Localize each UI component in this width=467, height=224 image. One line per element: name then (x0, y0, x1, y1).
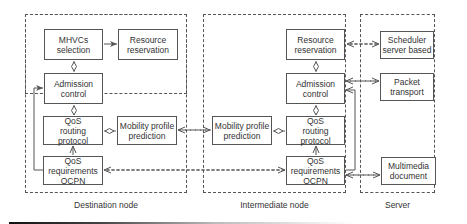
box-label-line: routing protocol (44, 126, 102, 146)
box-label-line: OCPN (61, 176, 86, 186)
destination-qos-requirements-ocpn-box: QoS requirements OCPN (43, 156, 103, 185)
box-label-line: MHVCs (59, 35, 88, 45)
box-label-line: OCPN (303, 176, 328, 186)
box-label-line: Admission (296, 79, 335, 89)
box-label-line: routing protocol (287, 126, 344, 146)
box-label-line: reservation (294, 45, 336, 55)
box-label-line: QoS (64, 116, 81, 126)
box-label-line: Resource (130, 35, 166, 45)
box-label-line: Mobility profile (215, 121, 269, 131)
box-label-line: prediction (129, 131, 166, 141)
destination-admission-control-box: Admission control (44, 73, 103, 104)
destination-resource-reservation-box: Resource reservation (118, 29, 178, 60)
intermediate-qos-requirements-ocpn-box: QoS requirements OCPN (286, 156, 345, 185)
box-label-line: prediction (224, 131, 261, 141)
mhvcs-selection-box: MHVCs selection (44, 29, 103, 60)
intermediate-resource-reservation-box: Resource reservation (286, 29, 345, 60)
box-label-line: transport (390, 87, 424, 97)
box-label-line: Resource (297, 35, 333, 45)
box-label-line: reservation (127, 45, 169, 55)
destination-node-caption: Destination node (25, 200, 187, 210)
intermediate-qos-routing-protocol-box: QoS routing protocol (286, 116, 345, 145)
intermediate-node-caption: Intermediate node (203, 200, 346, 210)
box-label-line: Mobility profile (120, 121, 174, 131)
box-label-line: QoS (64, 156, 81, 166)
packet-transport-box: Packet transport (380, 73, 434, 101)
box-label-line: selection (57, 45, 91, 55)
box-label-line: Packet (394, 77, 420, 87)
box-label-line: Admission (54, 79, 93, 89)
box-label-line: QoS (307, 156, 324, 166)
destination-qos-routing-protocol-box: QoS routing protocol (43, 116, 103, 145)
destination-mobility-profile-prediction-box: Mobility profile prediction (117, 116, 177, 145)
box-label-line: requirements (291, 166, 341, 176)
intermediate-feedback-line (346, 90, 355, 170)
scheduler-server-based-box: Scheduler server based (380, 31, 434, 59)
multimedia-document-box: Multimedia document (381, 157, 436, 185)
bottom-rule (9, 222, 467, 224)
box-label-line: QoS (307, 116, 324, 126)
server-caption: Server (360, 200, 435, 210)
box-label-line: control (303, 89, 329, 99)
box-label-line: Scheduler (388, 35, 426, 45)
box-label-line: requirements (48, 166, 98, 176)
box-label-line: document (390, 171, 427, 181)
intermediate-mobility-profile-prediction-box: Mobility profile prediction (212, 116, 272, 145)
box-label-line: control (61, 89, 87, 99)
box-label-line: Multimedia (388, 161, 429, 171)
box-label-line: server based (382, 45, 431, 55)
intermediate-admission-control-box: Admission control (286, 73, 345, 104)
